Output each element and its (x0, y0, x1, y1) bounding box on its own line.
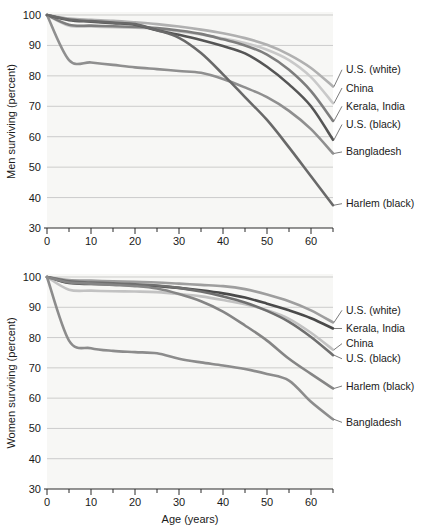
x-tick-label-30: 30 (173, 496, 185, 508)
x-tick-label-60: 60 (305, 235, 317, 247)
x-tick-label-0: 0 (44, 496, 50, 508)
x-tick-label-20: 20 (129, 496, 141, 508)
y-tick-label-60: 60 (29, 392, 41, 404)
series-label-u-s-black: U.S. (black) (346, 118, 401, 130)
life-expectancy-survival-curves-figure: 30405060708090100Men surviving (percent)… (0, 0, 445, 529)
series-label-bangladesh: Bangladesh (346, 145, 402, 157)
series-label-china: China (346, 337, 374, 349)
y-tick-label-90: 90 (29, 301, 41, 313)
y-tick-label-80: 80 (29, 70, 41, 82)
series-label-u-s-white: U.S. (white) (346, 304, 401, 316)
y-tick-label-50: 50 (29, 422, 41, 434)
series-label-harlem-black: Harlem (black) (346, 197, 414, 209)
y-tick-label-40: 40 (29, 453, 41, 465)
x-tick-label-40: 40 (217, 235, 229, 247)
series-label-kerala-india: Kerala, India (346, 100, 405, 112)
y-tick-label-90: 90 (29, 39, 41, 51)
x-tick-label-20: 20 (129, 235, 141, 247)
y-tick-label-80: 80 (29, 332, 41, 344)
series-label-harlem-black: Harlem (black) (346, 380, 414, 392)
x-tick-label-10: 10 (85, 496, 97, 508)
x-tick-label-0: 0 (44, 235, 50, 247)
x-axis-title: Age (years) (162, 513, 219, 525)
y-tick-label-40: 40 (29, 192, 41, 204)
series-label-bangladesh: Bangladesh (346, 416, 402, 428)
series-label-china: China (346, 82, 374, 94)
y-tick-label-50: 50 (29, 161, 41, 173)
x-tick-label-50: 50 (261, 235, 273, 247)
x-tick-label-60: 60 (305, 496, 317, 508)
y-axis-title: Men surviving (percent) (5, 64, 17, 179)
y-tick-label-100: 100 (23, 271, 41, 283)
y-tick-label-30: 30 (29, 222, 41, 234)
y-tick-label-30: 30 (29, 483, 41, 495)
y-axis-title: Women surviving (percent) (5, 317, 17, 448)
y-tick-label-100: 100 (23, 9, 41, 21)
series-label-u-s-white: U.S. (white) (346, 63, 401, 75)
x-tick-label-30: 30 (173, 235, 185, 247)
series-label-kerala-india: Kerala, India (346, 322, 405, 334)
y-tick-label-70: 70 (29, 362, 41, 374)
y-tick-label-60: 60 (29, 131, 41, 143)
series-label-u-s-black: U.S. (black) (346, 352, 401, 364)
x-tick-label-50: 50 (261, 496, 273, 508)
x-tick-label-40: 40 (217, 496, 229, 508)
y-tick-label-70: 70 (29, 100, 41, 112)
x-tick-label-10: 10 (85, 235, 97, 247)
